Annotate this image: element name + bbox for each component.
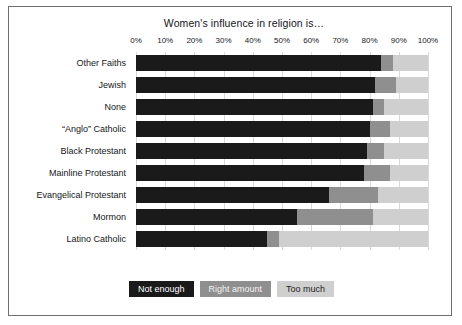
x-tick-label: 30% (216, 36, 232, 45)
plot-area (136, 52, 428, 250)
bar-segment (136, 99, 373, 115)
x-tick-label: 80% (362, 36, 378, 45)
bar-segment (364, 165, 390, 181)
category-label: Latino Catholic (66, 231, 126, 247)
bar-segment (267, 231, 279, 247)
bar-segment (375, 77, 395, 93)
x-tick-label: 50% (274, 36, 290, 45)
bar-segment (136, 121, 370, 137)
category-label: Evangelical Protestant (36, 187, 126, 203)
category-label: Jewish (98, 77, 126, 93)
x-tick-label: 70% (332, 36, 348, 45)
bar-segment (381, 55, 393, 71)
bar-segment (136, 77, 375, 93)
legend-item-too-much[interactable]: Too much (277, 281, 334, 297)
x-tick-label: 60% (303, 36, 319, 45)
x-tick-label: 0% (130, 36, 142, 45)
y-axis-category-labels: Other FaithsJewishNone“Anglo” CatholicBl… (0, 52, 130, 250)
bar-segment (373, 209, 428, 225)
bar-segment (390, 121, 428, 137)
category-label: “Anglo” Catholic (62, 121, 126, 137)
category-label: Other Faiths (76, 55, 126, 71)
x-tick-label: 90% (391, 36, 407, 45)
category-label: Mormon (93, 209, 126, 225)
legend-label-right-amount: Right amount (209, 284, 263, 294)
bar-segment (384, 143, 428, 159)
bar-row (136, 143, 428, 159)
bar-row (136, 231, 428, 247)
bar-segment (367, 143, 385, 159)
bar-segment (279, 231, 428, 247)
bar-row (136, 99, 428, 115)
bar-segment (329, 187, 379, 203)
bar-rows (136, 52, 428, 250)
bar-segment (396, 77, 428, 93)
category-label: None (104, 99, 126, 115)
x-tick-label: 40% (245, 36, 261, 45)
x-axis-tick-labels: 0%10%20%30%40%50%60%70%80%90%100% (136, 36, 428, 49)
bar-segment (136, 55, 381, 71)
bar-row (136, 187, 428, 203)
bar-segment (378, 187, 428, 203)
category-label: Black Protestant (60, 143, 126, 159)
bar-row (136, 209, 428, 225)
bar-segment (393, 55, 428, 71)
bar-row (136, 77, 428, 93)
category-label: Mainline Protestant (49, 165, 126, 181)
legend-item-right-amount[interactable]: Right amount (200, 281, 272, 297)
bar-row (136, 121, 428, 137)
bar-segment (136, 143, 367, 159)
bar-segment (136, 231, 267, 247)
bar-segment (297, 209, 373, 225)
bar-row (136, 165, 428, 181)
bar-segment (390, 165, 428, 181)
legend-item-not-enough[interactable]: Not enough (129, 281, 194, 297)
chart-figure: Women's influence in religion is… 0%10%2… (0, 0, 462, 325)
bar-segment (136, 165, 364, 181)
bar-row (136, 55, 428, 71)
chart-legend: Not enough Right amount Too much (129, 281, 334, 297)
x-tick-label: 10% (157, 36, 173, 45)
legend-label-not-enough: Not enough (138, 284, 185, 294)
bar-segment (373, 99, 385, 115)
gridline (428, 52, 429, 250)
bar-segment (384, 99, 428, 115)
bar-segment (136, 209, 297, 225)
x-tick-label: 100% (418, 36, 438, 45)
bar-segment (136, 187, 329, 203)
chart-title: Women's influence in religion is… (0, 17, 462, 29)
x-tick-label: 20% (186, 36, 202, 45)
bar-segment (370, 121, 390, 137)
legend-label-too-much: Too much (286, 284, 325, 294)
